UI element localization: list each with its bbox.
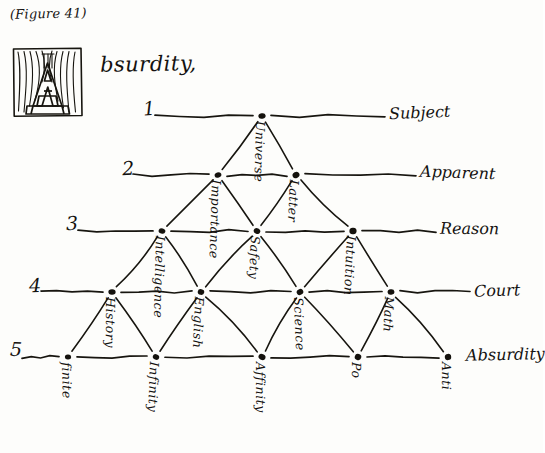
node-dot-history[interactable] — [108, 289, 115, 295]
node-dot-math[interactable] — [387, 289, 395, 295]
row-rule-3 — [362, 230, 436, 232]
node-dot-intuition[interactable] — [349, 227, 357, 234]
node-label-finite: finite — [59, 362, 75, 399]
row-lines-group — [22, 115, 470, 359]
node-label-infinity: Infinity — [145, 361, 162, 412]
row-number-4: 4 — [29, 274, 42, 296]
row-rule-1 — [271, 115, 385, 118]
row-rule-5 — [271, 356, 349, 359]
node-dot-science[interactable] — [296, 288, 305, 296]
row-number-3: 3 — [65, 212, 78, 235]
row-rule-4 — [210, 291, 291, 293]
edge-n4d-n5e — [396, 297, 444, 351]
row-rule-3 — [78, 230, 153, 232]
row-rule-5 — [77, 356, 147, 358]
edge-n2a-n3a — [167, 180, 213, 226]
node-label-anti: Anti — [439, 362, 454, 391]
row-rule-3 — [266, 231, 344, 233]
edge-n4c-n5d — [305, 297, 354, 352]
row-number-1: 1 — [142, 97, 156, 120]
node-dot-intelligence[interactable] — [158, 227, 166, 234]
row-rule-5 — [22, 356, 59, 359]
edge-n1-n2b — [266, 122, 293, 169]
node-label-intelligence: Intelligence — [151, 236, 168, 319]
node-label-safety: Safety — [246, 235, 263, 279]
node-label-affinity: Affinity — [253, 362, 268, 413]
row-label-apparent: Apparent — [420, 162, 496, 184]
node-dot-safety[interactable] — [253, 227, 262, 235]
row-rule-1 — [155, 115, 253, 117]
row-rule-5 — [367, 356, 439, 358]
edge-n3c-n4d — [357, 237, 388, 286]
row-label-reason: Reason — [440, 219, 499, 238]
row-number-5: 5 — [10, 338, 23, 360]
row-label-absurdity: Absurdity — [466, 344, 545, 365]
node-dot-po[interactable] — [354, 353, 362, 361]
node-dot-infinity[interactable] — [152, 353, 160, 360]
edge-n4b-n5c — [206, 297, 257, 352]
edge-n3b-n4c — [261, 237, 296, 287]
node-dot-english[interactable] — [197, 289, 204, 296]
edge-n4a-n5b — [116, 298, 152, 351]
edge-n2b-n3c — [301, 180, 348, 226]
node-label-importance: Importance — [207, 180, 224, 260]
node-dot-anti[interactable] — [445, 354, 452, 361]
row-rule-2 — [305, 174, 416, 176]
row-number-2: 2 — [121, 157, 134, 180]
node-label-po: Po — [349, 362, 364, 379]
node-dot-universe[interactable] — [258, 113, 266, 120]
node-label-universe: Universe — [251, 121, 268, 183]
row-rule-2 — [133, 174, 209, 177]
row-rule-4 — [400, 291, 470, 293]
node-label-english: English — [190, 296, 207, 348]
node-label-history: History — [103, 297, 118, 348]
edge-n3a-n4b — [166, 237, 197, 286]
node-dot-latter[interactable] — [291, 171, 300, 180]
node-label-math: Math — [380, 296, 397, 332]
row-rule-5 — [165, 356, 253, 358]
edge-n2a-n3b — [222, 181, 253, 226]
node-label-latter: Latter — [285, 179, 302, 222]
row-label-subject: Subject — [389, 102, 451, 123]
node-label-science: Science — [291, 297, 308, 351]
node-dot-importance[interactable] — [214, 171, 222, 178]
node-dot-finite[interactable] — [65, 354, 72, 360]
node-label-intuition: Intuition — [341, 235, 359, 296]
node-dot-affinity[interactable] — [258, 353, 267, 361]
row-label-court: Court — [474, 280, 521, 300]
row-rule-4 — [41, 291, 103, 293]
